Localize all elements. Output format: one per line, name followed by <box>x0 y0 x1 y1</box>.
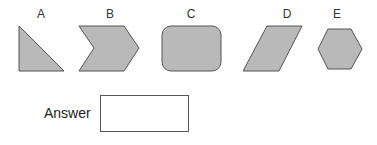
option-shape-b-chevron <box>79 26 139 71</box>
option-shape-e-hexagon <box>318 29 362 69</box>
answer-input[interactable] <box>100 95 189 132</box>
answer-label: Answer <box>44 105 91 121</box>
option-shape-c-rounded-rectangle <box>162 26 221 71</box>
option-shape-a-triangle <box>19 26 64 71</box>
option-shape-d-parallelogram <box>243 26 302 71</box>
